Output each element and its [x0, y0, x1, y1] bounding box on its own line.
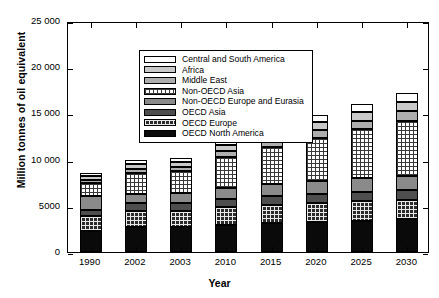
- legend-item-2[interactable]: Middle East: [144, 75, 308, 86]
- bar-segment: [351, 112, 373, 121]
- x-tick-label: 2002: [110, 256, 160, 267]
- legend-swatch: [144, 109, 176, 116]
- bar-segment: [80, 180, 102, 183]
- x-tick-label: 2010: [200, 256, 250, 267]
- legend-item-6[interactable]: OECD Europe: [144, 118, 308, 129]
- x-axis-title: Year: [0, 277, 439, 289]
- legend-item-0[interactable]: Central and South America: [144, 54, 308, 65]
- bar-segment: [396, 121, 418, 176]
- legend-swatch: [144, 119, 176, 126]
- y-tick-label-text: 5000: [39, 200, 60, 211]
- bar-segment: [351, 121, 373, 130]
- bar-segment: [170, 203, 192, 211]
- y-tick-mark: [68, 69, 73, 70]
- bar-segment: [351, 104, 373, 112]
- chart-legend: Central and South AmericaAfricaMiddle Ea…: [139, 50, 313, 143]
- x-tick-mark: [181, 247, 182, 252]
- legend-item-4[interactable]: Non-OECD Europe and Eurasia: [144, 96, 308, 107]
- legend-label: OECD North America: [182, 129, 264, 138]
- bar-2030: [396, 93, 418, 252]
- legend-swatch: [144, 130, 176, 137]
- bar-segment: [306, 194, 328, 203]
- y-tick-mark: [423, 69, 428, 70]
- y-tick-label-text: 10 000: [31, 154, 60, 165]
- bar-segment: [215, 145, 237, 151]
- bar-2002: [125, 160, 147, 252]
- legend-label: Non-OECD Asia: [182, 87, 244, 96]
- bar-segment: [396, 200, 418, 220]
- x-tick-label: 2015: [246, 256, 296, 267]
- bar-segment: [80, 183, 102, 197]
- x-tick-label: 2003: [155, 256, 205, 267]
- legend-swatch: [144, 88, 176, 95]
- bar-segment: [351, 192, 373, 202]
- bar-segment: [215, 199, 237, 208]
- chart-figure: Million tonnes of oil equivalent 0500010…: [0, 0, 439, 298]
- bar-segment: [261, 205, 283, 223]
- bar-segment: [396, 102, 418, 112]
- legend-item-7[interactable]: OECD North America: [144, 128, 308, 139]
- legend-label: OECD Asia: [182, 108, 225, 117]
- plot-area: Central and South AmericaAfricaMiddle Ea…: [67, 22, 429, 253]
- legend-item-5[interactable]: OECD Asia: [144, 107, 308, 118]
- x-tick-mark: [272, 247, 273, 252]
- bar-2015: [261, 127, 283, 252]
- bar-segment: [80, 196, 102, 210]
- bar-segment: [306, 181, 328, 194]
- y-axis-title: Million tonnes of oil equivalent: [15, 0, 27, 225]
- bar-segment: [170, 211, 192, 228]
- bar-segment: [351, 201, 373, 220]
- y-tick-mark: [68, 208, 73, 209]
- y-tick-mark: [68, 23, 73, 24]
- y-tick-mark: [68, 162, 73, 163]
- legend-label: OECD Europe: [182, 119, 237, 128]
- x-tick-mark: [91, 23, 92, 28]
- x-tick-mark: [226, 247, 227, 252]
- bar-segment: [306, 138, 328, 181]
- bar-segment: [125, 164, 147, 169]
- bar-segment: [80, 210, 102, 216]
- x-tick-mark: [91, 247, 92, 252]
- bar-segment: [215, 151, 237, 157]
- y-tick-label-text: 25 000: [31, 15, 60, 26]
- bar-segment: [125, 173, 147, 194]
- bar-segment: [215, 207, 237, 225]
- y-tick-label-text: 15 000: [31, 107, 60, 118]
- bar-segment: [306, 203, 328, 222]
- bar-segment: [170, 167, 192, 171]
- x-tick-mark: [136, 247, 137, 252]
- bar-2025: [351, 104, 373, 252]
- x-tick-mark: [317, 23, 318, 28]
- y-tick-label-text: 0: [55, 246, 60, 257]
- bar-segment: [125, 211, 147, 227]
- legend-label: Africa: [182, 66, 204, 75]
- bar-2003: [170, 158, 192, 252]
- y-tick-mark: [68, 115, 73, 116]
- bar-segment: [170, 193, 192, 203]
- y-tick-mark: [423, 115, 428, 116]
- y-tick-mark: [423, 23, 428, 24]
- bar-segment: [351, 129, 373, 178]
- legend-swatch: [144, 66, 176, 73]
- x-tick-mark: [226, 23, 227, 28]
- bar-2010: [215, 140, 237, 252]
- bar-segment: [396, 176, 418, 190]
- bar-segment: [170, 158, 192, 162]
- bar-segment: [261, 196, 283, 205]
- legend-item-3[interactable]: Non-OECD Asia: [144, 86, 308, 97]
- x-tick-mark: [181, 23, 182, 28]
- bar-segment: [215, 188, 237, 199]
- legend-label: Non-OECD Europe and Eurasia: [182, 97, 304, 106]
- x-tick-mark: [362, 247, 363, 252]
- bar-segment: [396, 190, 418, 200]
- legend-swatch: [144, 56, 176, 63]
- bar-segment: [125, 203, 147, 211]
- x-tick-mark: [136, 23, 137, 28]
- y-tick-mark: [68, 254, 73, 255]
- x-tick-mark: [407, 23, 408, 28]
- legend-item-1[interactable]: Africa: [144, 65, 308, 76]
- x-tick-label: 2025: [336, 256, 386, 267]
- bar-segment: [80, 173, 102, 176]
- x-tick-label: 2030: [381, 256, 431, 267]
- bar-1990: [80, 173, 102, 252]
